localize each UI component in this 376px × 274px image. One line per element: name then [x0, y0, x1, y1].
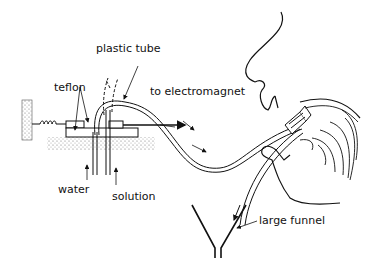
spring-icon	[32, 121, 66, 124]
label-large-funnel: large funnel	[259, 215, 325, 226]
label-solution: solution	[112, 191, 156, 202]
base-plate	[47, 137, 155, 150]
label-to-electromagnet: to electromagnet	[150, 86, 245, 97]
diagram-canvas: plastic tube teflon to electromagnet wat…	[0, 0, 376, 274]
apparatus-drawing	[0, 0, 376, 274]
mouthpiece	[285, 106, 311, 134]
label-plastic-tube: plastic tube	[96, 43, 160, 54]
label-water: water	[58, 184, 89, 195]
label-teflon: teflon	[54, 82, 86, 93]
inlet-arrows	[87, 165, 116, 185]
funnel-icon	[192, 205, 246, 258]
drain-tube	[234, 129, 303, 225]
flow-arrow	[192, 145, 206, 152]
wall-block	[22, 100, 32, 140]
